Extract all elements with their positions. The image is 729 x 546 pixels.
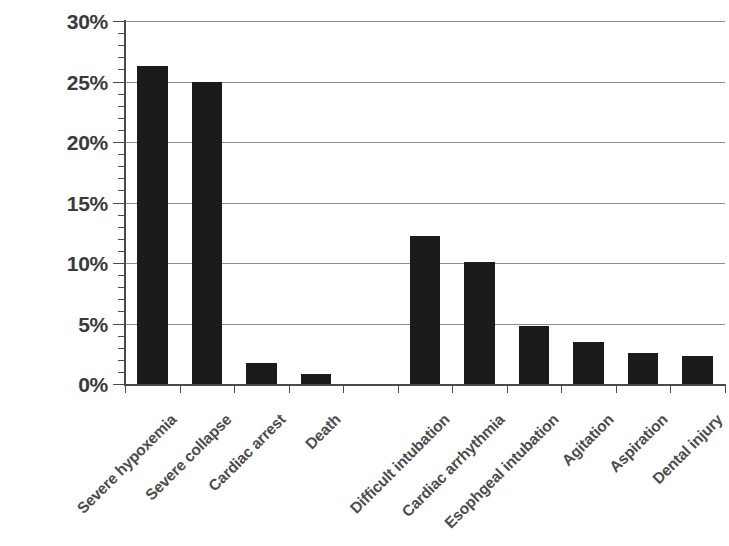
x-axis-category-label: Cardiac arrest [0,411,290,546]
x-axis-category-label: Agitation [321,411,617,546]
x-axis-category-labels: Severe hypoxemiaSevere collapseCardiac a… [0,0,729,546]
bar-chart: 0%5%10%15%20%25%30% Severe hypoxemiaSeve… [0,0,729,546]
x-axis-category-label: Death [49,411,345,546]
